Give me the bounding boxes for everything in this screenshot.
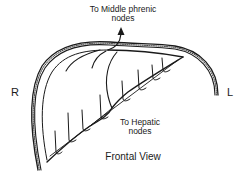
right-side-label: R bbox=[11, 87, 19, 99]
hepatic-nodes-label: To Hepatic nodes bbox=[112, 118, 168, 136]
hepatic-label-line2: nodes bbox=[112, 127, 168, 136]
left-side-label: L bbox=[227, 87, 233, 99]
phrenic-label-line2: nodes bbox=[78, 14, 168, 23]
liver-lymphatic-diagram: To Middle phrenic nodes To Hepatic nodes… bbox=[0, 0, 247, 179]
dome-lymphatics bbox=[66, 50, 106, 71]
view-caption: Frontal View bbox=[98, 152, 168, 163]
middle-phrenic-nodes-label: To Middle phrenic nodes bbox=[78, 5, 168, 23]
arrowhead-icon bbox=[118, 27, 125, 35]
